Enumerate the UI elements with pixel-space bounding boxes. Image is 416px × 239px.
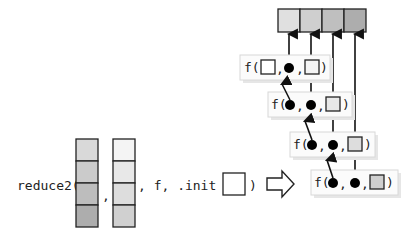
x-cell-3 — [76, 183, 98, 205]
x-vector — [76, 139, 98, 227]
comma: , — [296, 98, 304, 113]
comma: , — [318, 138, 326, 153]
step-1-call: f( , , ) — [240, 55, 333, 83]
y-cell-4 — [113, 205, 135, 227]
accumulator-dot — [285, 100, 295, 110]
y-arg-square — [326, 97, 340, 111]
y-vector — [113, 139, 135, 227]
output-cell-4 — [344, 9, 366, 32]
f-label: f( — [244, 60, 260, 75]
x-cell-1 — [76, 139, 98, 161]
y-arg-square — [348, 137, 362, 151]
result-dot — [284, 63, 294, 73]
comma: , — [339, 176, 347, 191]
init-square — [223, 173, 245, 195]
close-paren: ) — [386, 175, 394, 190]
step-2-call: f( , , ) — [268, 92, 355, 120]
f-label: f( — [314, 175, 330, 190]
close-paren: ) — [249, 178, 257, 193]
output-cell-1 — [278, 9, 300, 32]
x-cell-2 — [76, 161, 98, 183]
comma-separator: , — [102, 188, 110, 203]
x-cell-4 — [76, 205, 98, 227]
result-dot — [350, 178, 360, 188]
accumulator-dot — [328, 178, 338, 188]
hollow-right-arrow-icon — [267, 171, 294, 197]
close-paren: ) — [320, 60, 328, 75]
args-label: , f, .init = — [138, 178, 232, 193]
output-cell-3 — [322, 9, 344, 32]
comma: , — [317, 98, 325, 113]
output-vector — [278, 9, 366, 32]
accumulator-dot — [307, 140, 317, 150]
init-arg-square — [261, 60, 275, 74]
reduce2-diagram: reduce2( , , f, .init = ) f( , , — [0, 0, 416, 239]
reduce2-function-label: reduce2( — [17, 178, 80, 193]
comma: , — [296, 61, 304, 76]
comma: , — [361, 176, 369, 191]
y-cell-1 — [113, 139, 135, 161]
result-dot — [306, 100, 316, 110]
output-cell-2 — [300, 9, 322, 32]
y-arg-square — [370, 175, 384, 189]
y-cell-3 — [113, 183, 135, 205]
y-arg-square — [305, 60, 319, 74]
f-label: f( — [271, 97, 287, 112]
step-4-call: f( , , ) — [311, 170, 401, 198]
result-dot — [328, 140, 338, 150]
f-label: f( — [293, 137, 309, 152]
y-cell-2 — [113, 161, 135, 183]
comma: , — [339, 138, 347, 153]
step-3-call: f( , , ) — [290, 132, 378, 160]
close-paren: ) — [364, 137, 372, 152]
comma: , — [276, 61, 284, 76]
close-paren: ) — [342, 97, 350, 112]
